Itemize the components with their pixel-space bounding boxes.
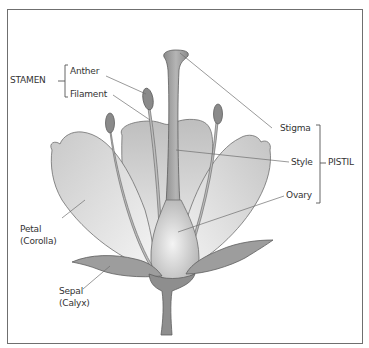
label-stigma: Stigma xyxy=(280,123,311,134)
label-filament: Filament xyxy=(70,89,107,100)
label-petal: Petal xyxy=(20,224,41,235)
label-style: Style xyxy=(291,157,313,168)
label-corolla: (Corolla) xyxy=(20,236,57,247)
stem xyxy=(149,274,195,335)
label-pistil: PISTIL xyxy=(328,157,354,168)
label-calyx: (Calyx) xyxy=(59,298,90,309)
label-sepal: Sepal xyxy=(59,286,83,297)
flower-illustration xyxy=(0,0,369,348)
label-stamen: STAMEN xyxy=(10,75,46,86)
label-ovary: Ovary xyxy=(286,190,312,201)
label-anther: Anther xyxy=(70,66,99,77)
